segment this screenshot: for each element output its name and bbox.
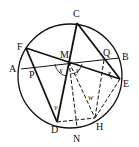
geometry-diagram: C F A B E D N H M P Q x y z v w [0,0,139,147]
angle-label-w: w [88,93,94,102]
chord-CE [77,23,120,79]
angle-label-x: x [58,66,63,75]
dash-QH [95,60,104,118]
label-B: B [122,51,129,62]
angle-label-v: v [54,103,58,112]
label-Q: Q [103,47,111,58]
label-F: F [17,41,23,52]
circle-chords-figure: C F A B E D N H M P Q x y z v w [0,0,139,147]
angle-label-y: y [75,66,80,75]
label-A: A [9,63,17,74]
label-H: H [96,121,103,132]
label-N: N [73,133,80,144]
label-D: D [51,124,58,135]
label-M: M [60,49,69,60]
label-E: E [123,78,129,89]
label-C: C [73,8,80,19]
label-P: P [29,69,35,80]
